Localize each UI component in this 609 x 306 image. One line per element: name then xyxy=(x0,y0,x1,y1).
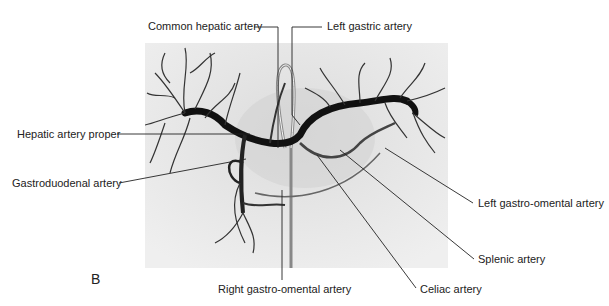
label-common-hepatic-artery: Common hepatic artery xyxy=(148,20,262,32)
label-hepatic-artery-proper: Hepatic artery proper xyxy=(17,128,120,140)
label-celiac-artery: Celiac artery xyxy=(420,283,482,295)
label-right-gastro-omental-artery: Right gastro-omental artery xyxy=(218,283,351,295)
label-left-gastric-artery: Left gastric artery xyxy=(327,20,412,32)
label-left-gastro-omental-artery: Left gastro-omental artery xyxy=(478,197,604,209)
label-gastroduodenal-artery: Gastroduodenal artery xyxy=(12,177,121,189)
panel-label: B xyxy=(91,271,100,287)
label-splenic-artery: Splenic artery xyxy=(478,253,545,265)
